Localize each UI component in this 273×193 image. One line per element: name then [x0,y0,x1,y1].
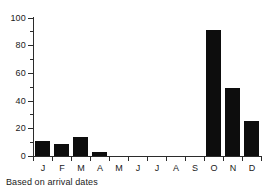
x-tick [71,156,72,161]
y-tick-label-text: 40 [0,97,26,106]
x-tick [128,156,129,161]
x-tick [109,156,110,161]
y-tick-minor [30,31,34,32]
y-tick-major [28,45,34,46]
x-tick-label-3: A [91,163,109,173]
x-tick [147,156,148,161]
x-tick [223,156,224,161]
bar-n-10 [225,88,240,156]
x-tick [52,156,53,161]
y-tick-label-text: 20 [0,124,26,133]
x-tick-label-11: D [243,163,261,173]
y-tick-major [28,101,34,102]
y-tick-minor [30,59,34,60]
y-tick-label-80: 80 [0,41,26,50]
x-tick-label-7: A [167,163,185,173]
x-tick-label-10: N [224,163,242,173]
bar-j-0 [35,141,50,156]
y-tick-label-20: 20 [0,124,26,133]
y-tick-label-100: 100 [0,14,26,23]
plot-area: 0 20 40 60 80 100 JFMAMJJASOND [0,0,273,168]
bar-d-11 [244,121,259,156]
bar-m-2 [73,137,88,156]
y-tick-major [28,128,34,129]
x-tick [242,156,243,161]
y-tick-label-text: 80 [0,41,26,50]
x-tick-label-9: O [205,163,223,173]
y-tick-label-text: 100 [0,14,26,23]
y-tick-label-text: 0 [0,152,26,161]
bar-chart-figure: 0 20 40 60 80 100 JFMAMJJASOND Based on … [0,0,273,193]
x-tick [185,156,186,161]
y-tick-label-0: 0 [0,152,26,161]
bar-a-3 [92,152,107,156]
x-tick-label-5: J [129,163,147,173]
x-tick [166,156,167,161]
y-tick-minor [30,87,34,88]
x-tick [33,156,34,161]
y-tick-label-40: 40 [0,97,26,106]
chart-caption: Based on arrival dates [6,177,98,188]
x-tick-label-4: M [110,163,128,173]
y-tick-minor [30,114,34,115]
x-tick-end [261,156,262,161]
y-tick-minor [30,142,34,143]
y-tick-major [28,73,34,74]
y-tick-major [28,18,34,19]
y-tick-label-text: 60 [0,69,26,78]
x-tick-label-0: J [34,163,52,173]
bar-f-1 [54,144,69,156]
x-tick-label-1: F [53,163,71,173]
x-tick-label-8: S [186,163,204,173]
bar-o-9 [206,30,221,156]
x-tick-label-6: J [148,163,166,173]
x-tick [204,156,205,161]
y-tick-label-60: 60 [0,69,26,78]
x-tick-label-2: M [72,163,90,173]
x-tick [90,156,91,161]
